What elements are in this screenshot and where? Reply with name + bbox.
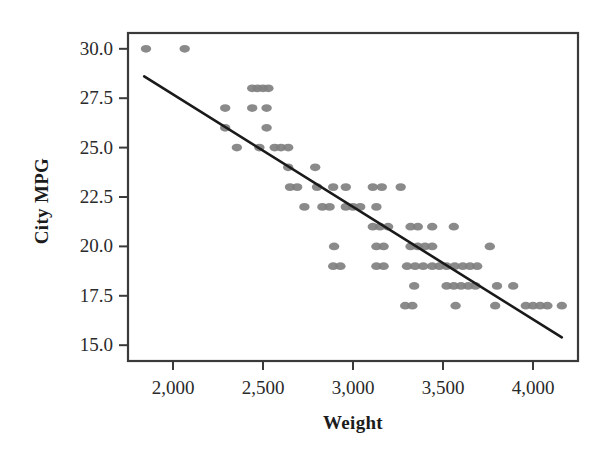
plot-frame: [128, 33, 578, 361]
data-point: [247, 104, 257, 112]
data-point: [409, 282, 419, 290]
data-point: [371, 203, 381, 211]
data-point: [427, 223, 437, 231]
data-point: [341, 183, 351, 191]
data-point: [492, 282, 502, 290]
data-point: [557, 302, 567, 310]
data-point: [220, 104, 230, 112]
regression-line: [144, 76, 562, 337]
data-point: [324, 203, 334, 211]
data-point: [180, 45, 190, 53]
data-point: [449, 223, 459, 231]
data-point: [292, 183, 302, 191]
plot-canvas: [0, 0, 607, 460]
data-point: [377, 183, 387, 191]
data-point: [299, 203, 309, 211]
data-point: [508, 282, 518, 290]
data-point: [310, 163, 320, 171]
data-point: [450, 302, 460, 310]
data-point: [335, 262, 345, 270]
data-point: [378, 262, 388, 270]
data-point: [329, 242, 339, 250]
data-point: [328, 183, 338, 191]
data-point: [261, 104, 271, 112]
data-point: [368, 183, 378, 191]
data-point: [261, 124, 271, 132]
data-point: [418, 262, 428, 270]
data-point: [472, 262, 482, 270]
data-point: [141, 45, 151, 53]
data-point: [427, 242, 437, 250]
data-point: [542, 302, 552, 310]
data-point: [407, 302, 417, 310]
scatter-plot-figure: City MPG Weight 15.017.520.022.525.027.5…: [0, 0, 607, 460]
data-point: [232, 144, 242, 152]
data-points: [141, 45, 567, 310]
data-point: [263, 84, 273, 92]
data-point: [490, 302, 500, 310]
data-point: [378, 242, 388, 250]
data-point: [413, 223, 423, 231]
data-point: [283, 144, 293, 152]
data-point: [485, 242, 495, 250]
fit-line: [144, 76, 562, 337]
data-point: [396, 183, 406, 191]
